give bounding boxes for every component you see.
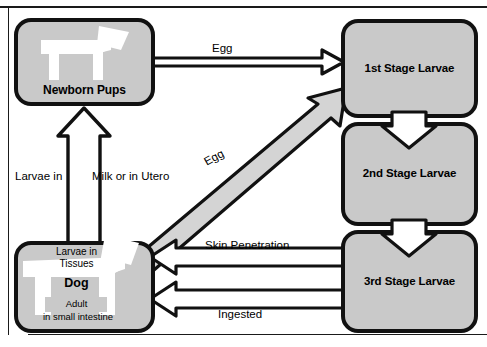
dog-larvae-line-1: Larvae in bbox=[14, 246, 139, 257]
edge-label-milk-or-in-utero: Milk or in Utero bbox=[92, 170, 169, 182]
node-label-dog: Dog bbox=[14, 276, 139, 290]
dog-location-label: in small intestine bbox=[8, 311, 148, 322]
edge-label-egg-top: Egg bbox=[212, 42, 232, 54]
edge-first-to-second bbox=[382, 112, 436, 148]
edge-label-skin-penetration: Skin Penetration bbox=[205, 239, 289, 251]
lifecycle-diagram: Newborn Pups 1st Stage Larvae 2nd Stage … bbox=[0, 0, 487, 347]
edge-label-ingested: Ingested bbox=[218, 308, 262, 320]
dog-larvae-line-2: Tissues bbox=[14, 258, 139, 269]
edge-label-larvae-in: Larvae in bbox=[15, 170, 62, 182]
stage-chevron-layer bbox=[0, 0, 487, 347]
edge-second-to-third bbox=[382, 220, 436, 256]
dog-adult-label: Adult bbox=[14, 298, 139, 309]
